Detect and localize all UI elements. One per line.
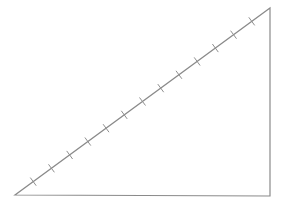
tick-mark bbox=[103, 124, 109, 132]
tick-mark bbox=[30, 178, 36, 186]
tick-mark bbox=[231, 31, 237, 39]
tick-mark bbox=[194, 57, 200, 65]
right-triangle-diagram bbox=[0, 0, 286, 209]
tick-mark bbox=[176, 71, 182, 79]
tick-mark bbox=[212, 44, 218, 52]
tick-mark bbox=[140, 98, 146, 106]
tick-mark bbox=[67, 151, 73, 159]
tick-mark bbox=[249, 17, 255, 25]
tick-mark bbox=[85, 138, 91, 146]
tick-mark bbox=[158, 84, 164, 92]
tick-mark bbox=[121, 111, 127, 119]
hypotenuse-tick-marks bbox=[30, 17, 254, 185]
tick-mark bbox=[49, 164, 55, 172]
